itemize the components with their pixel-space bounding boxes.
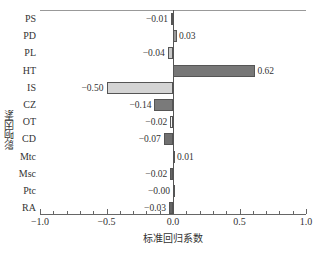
x-tick-label: 1.0 (300, 216, 313, 227)
x-minor-tick (213, 211, 214, 214)
x-minor-tick (293, 211, 294, 214)
value-label: −0.14 (129, 98, 151, 112)
bar (173, 65, 255, 77)
value-label: −0.02 (145, 167, 167, 181)
category-label: IS (0, 81, 36, 95)
x-minor-tick (93, 211, 94, 214)
x-minor-tick (266, 211, 267, 214)
category-label: OT (0, 115, 36, 129)
x-minor-tick (160, 211, 161, 214)
category-label: CD (0, 132, 36, 146)
category-label: HT (0, 64, 36, 78)
x-tick-label: −1.0 (31, 216, 49, 227)
category-label: PL (0, 46, 36, 60)
x-minor-tick (186, 211, 187, 214)
value-label: −0.00 (148, 184, 170, 198)
x-axis (40, 214, 306, 215)
value-label: 0.62 (257, 64, 274, 78)
category-label: PD (0, 29, 36, 43)
x-minor-tick (53, 211, 54, 214)
category-label: CZ (0, 98, 36, 112)
x-minor-tick (253, 211, 254, 214)
value-label: 0.01 (177, 150, 194, 164)
value-label: −0.01 (146, 12, 168, 26)
x-minor-tick (67, 211, 68, 214)
bar (154, 99, 173, 111)
x-minor-tick (133, 211, 134, 214)
x-minor-tick (146, 211, 147, 214)
category-label: Ptc (0, 184, 36, 198)
value-label: 0.03 (179, 29, 196, 43)
value-label: −0.50 (82, 81, 104, 95)
value-label: −0.07 (139, 132, 161, 146)
value-label: −0.02 (145, 115, 167, 129)
category-label: Msc (0, 167, 36, 181)
x-minor-tick (226, 211, 227, 214)
x-minor-tick (80, 211, 81, 214)
bar (164, 133, 173, 145)
value-label: −0.04 (143, 46, 165, 60)
x-tick-label: 0.5 (233, 216, 246, 227)
x-tick (240, 209, 241, 214)
x-minor-tick (279, 211, 280, 214)
x-minor-tick (120, 211, 121, 214)
x-tick (40, 209, 41, 214)
x-minor-tick (200, 211, 201, 214)
bar (107, 82, 174, 94)
category-label: RA (0, 201, 36, 215)
x-tick-label: −0.5 (97, 216, 115, 227)
x-tick (107, 209, 108, 214)
x-tick (306, 209, 307, 214)
zero-line (173, 10, 174, 214)
x-axis-label: 标准回归系数 (143, 230, 203, 245)
x-tick-label: 0.0 (167, 216, 180, 227)
category-label: PS (0, 12, 36, 26)
category-label: Mtc (0, 150, 36, 164)
